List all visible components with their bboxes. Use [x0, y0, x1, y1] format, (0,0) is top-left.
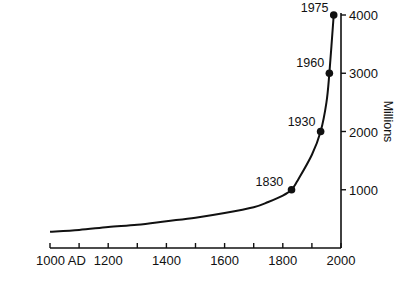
point-label-1930: 1930: [288, 115, 316, 129]
y-tick-label: 1000: [349, 183, 378, 198]
data-points: 1830193019601975: [256, 1, 338, 194]
data-point-1960: [326, 69, 334, 77]
y-tick-label: 4000: [349, 8, 378, 23]
point-label-1975: 1975: [301, 1, 329, 15]
x-tick-label: 1800: [268, 253, 297, 268]
x-tick-label: 1000 AD: [36, 253, 86, 268]
data-point-1830: [288, 186, 296, 194]
y-axis-label: Millions: [381, 101, 395, 143]
y-tick-label: 3000: [349, 66, 378, 81]
point-label-1830: 1830: [256, 175, 284, 189]
data-point-1930: [317, 128, 325, 136]
data-point-1975: [330, 11, 338, 19]
x-tick-label: 1200: [94, 253, 123, 268]
x-tick-label: 2000: [327, 253, 356, 268]
x-tick-label: 1600: [210, 253, 239, 268]
population-chart: 1000 AD120014001600180020001000200030004…: [0, 0, 400, 284]
x-tick-label: 1400: [152, 253, 181, 268]
y-tick-label: 2000: [349, 125, 378, 140]
point-label-1960: 1960: [296, 56, 324, 70]
